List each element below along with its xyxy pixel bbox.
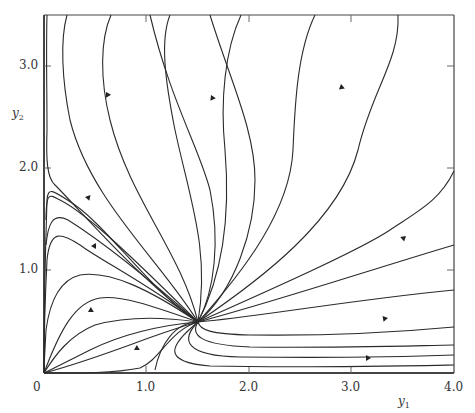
trajectory-right-1 — [198, 171, 454, 322]
trajectory-right-6 — [189, 322, 454, 357]
y-tick-label-3: 3.0 — [19, 58, 38, 72]
x-tick-label-3: 3.0 — [341, 380, 360, 394]
x-tick-label-0: 0 — [33, 380, 41, 394]
arrow-icon — [87, 307, 94, 315]
arrow-icon — [84, 194, 90, 201]
y-tick-label-1: 1.0 — [19, 262, 38, 276]
arrow-icon — [338, 83, 345, 89]
x-tick-label-1: 1.0 — [136, 380, 155, 394]
trajectory-up-4 — [198, 15, 241, 322]
arrow-icon — [208, 94, 216, 101]
axis-ticks — [44, 15, 454, 373]
trajectory-left-upper-1 — [47, 15, 198, 322]
trajectory-up-6 — [198, 15, 398, 322]
arrow-icon — [400, 234, 408, 242]
trajectory-up-3 — [165, 15, 202, 322]
arrow-icon — [383, 315, 389, 322]
trajectory-left-5 — [44, 318, 198, 373]
y-tick-label-2: 2.0 — [19, 160, 38, 174]
y-axis-label: y2 — [12, 106, 24, 122]
x-tick-label-2: 2.0 — [239, 380, 258, 394]
phase-portrait-figure: 0 1.0 2.0 3.0 4.0 1.0 2.0 3.0 y1 y2 — [0, 0, 475, 413]
trajectory-left-upper-3 — [46, 218, 198, 322]
trajectory-right-4 — [198, 322, 454, 335]
trajectory-up-8 — [150, 15, 215, 322]
arrow-icon — [91, 243, 96, 249]
trajectories — [44, 15, 454, 373]
arrow-icon — [366, 355, 371, 361]
x-axis-label: y1 — [398, 394, 410, 410]
trajectory-right-2 — [198, 245, 454, 322]
x-tick-label-4: 4.0 — [444, 380, 463, 394]
trajectory-right-7 — [175, 322, 454, 367]
plot-frame — [44, 15, 454, 373]
phase-portrait-plot — [0, 0, 475, 413]
arrow-icon — [133, 345, 140, 353]
